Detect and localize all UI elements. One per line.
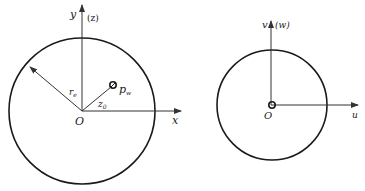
y-axis-label: y bbox=[69, 8, 77, 21]
radius-line bbox=[30, 67, 82, 111]
x-axis-label: x bbox=[172, 114, 179, 127]
point-label-main: p bbox=[119, 83, 126, 96]
radius-label-sub: e bbox=[73, 91, 77, 98]
conformal-mapping-diagram: y (z) x O re z0 pw v (w) u O bbox=[0, 0, 365, 191]
u-axis-label: u bbox=[352, 110, 358, 120]
offset-line bbox=[82, 87, 111, 111]
offset-label-sub: 0 bbox=[103, 103, 107, 110]
v-axis-paren-label: (w) bbox=[275, 20, 290, 30]
v-axis-label: v bbox=[262, 19, 268, 30]
point-pw-slash bbox=[111, 83, 115, 87]
origin-label-left: O bbox=[75, 115, 84, 128]
offset-label: z0 bbox=[97, 99, 107, 110]
right-w-plane: v (w) u O bbox=[217, 19, 358, 160]
y-axis-paren-label: (z) bbox=[87, 13, 99, 23]
point-label: pw bbox=[119, 83, 132, 96]
radius-label: re bbox=[69, 87, 77, 98]
origin-label-right: O bbox=[264, 110, 272, 121]
point-label-sub: w bbox=[126, 89, 132, 96]
left-z-plane: y (z) x O re z0 pw bbox=[9, 5, 181, 184]
